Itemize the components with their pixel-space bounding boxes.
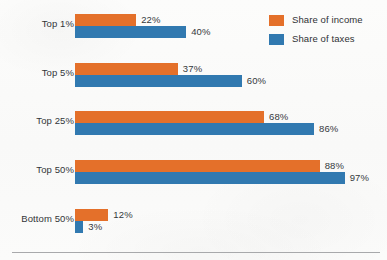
category-label: Top 25%	[36, 115, 74, 126]
bar-income	[75, 14, 136, 26]
legend-label: Share of taxes	[292, 33, 355, 44]
bar-value-label: 40%	[191, 26, 210, 37]
legend-swatch-icon	[269, 34, 284, 45]
bar-value-label: 37%	[183, 63, 202, 74]
bar-income	[75, 209, 108, 221]
bar-taxes	[75, 26, 186, 38]
bar-group: Top 25%68%86%	[0, 111, 387, 136]
category-label: Top 50%	[36, 164, 74, 175]
bar-income	[75, 111, 264, 123]
bar-taxes	[75, 221, 83, 233]
bar-taxes	[75, 172, 345, 184]
legend-item: Share of taxes	[269, 31, 381, 50]
bar-taxes	[75, 123, 314, 135]
bar-value-label: 3%	[88, 221, 102, 232]
bar-income	[75, 63, 178, 75]
bar-value-label: 60%	[247, 75, 266, 86]
legend-swatch-icon	[269, 15, 284, 26]
category-label: Top 1%	[42, 18, 74, 29]
bar-value-label: 86%	[319, 123, 338, 134]
chart-legend: Share of incomeShare of taxes	[269, 12, 381, 50]
bar-income	[75, 160, 320, 172]
bar-taxes	[75, 75, 242, 87]
legend-label: Share of income	[292, 14, 363, 25]
bar-group: Top 50%88%97%	[0, 160, 387, 185]
bar-value-label: 12%	[113, 209, 132, 220]
bar-value-label: 68%	[269, 111, 288, 122]
bar-value-label: 22%	[141, 14, 160, 25]
bar-value-label: 88%	[325, 160, 344, 171]
bar-group: Bottom 50%12%3%	[0, 209, 387, 234]
category-label: Top 5%	[42, 67, 74, 78]
legend-item: Share of income	[269, 12, 381, 31]
bar-value-label: 97%	[350, 172, 369, 183]
bar-group: Top 5%37%60%	[0, 63, 387, 88]
bar-chart-figure: Top 1%22%40%Top 5%37%60%Top 25%68%86%Top…	[0, 0, 387, 260]
category-label: Bottom 50%	[21, 213, 74, 224]
axis-baseline	[12, 252, 380, 253]
